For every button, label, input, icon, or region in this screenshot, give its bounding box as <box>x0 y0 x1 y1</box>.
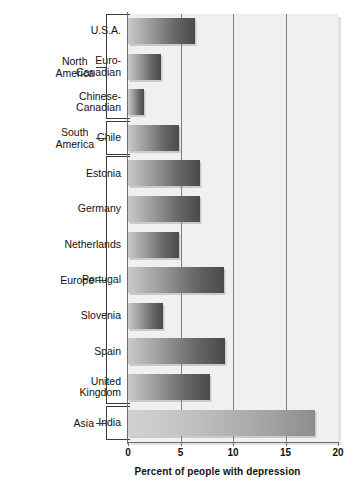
bar-estonia <box>128 160 200 186</box>
bar-germany <box>128 196 200 222</box>
group-label-north: NorthAmerica <box>55 55 94 79</box>
group-label-line: North <box>55 55 94 67</box>
bracket-spine <box>106 14 107 119</box>
group-label-europe: Europe <box>60 274 94 286</box>
bracket-spine <box>106 121 107 155</box>
bar-chile <box>128 125 179 151</box>
bracket-stem <box>96 67 106 68</box>
x-axis-title-text: Percent of people with depression <box>58 466 300 477</box>
bar-slovenia <box>128 303 163 329</box>
group-label-south: SouthAmerica <box>55 126 94 150</box>
group-label-line: South <box>55 126 94 138</box>
gridline-10 <box>233 14 234 442</box>
bracket-spine <box>106 156 107 404</box>
group-label-line: America <box>55 138 94 150</box>
x-tick-label-20: 20 <box>332 447 343 458</box>
group-label-asia: Asia <box>74 417 94 429</box>
gridline-15 <box>286 14 287 442</box>
bar-netherlands <box>128 232 179 258</box>
x-tick-label-0: 0 <box>125 447 131 458</box>
bar-india <box>128 410 315 436</box>
x-tick-label-15: 15 <box>280 447 291 458</box>
y-axis-line <box>127 12 128 444</box>
bar-portugal <box>128 267 224 293</box>
group-label-line: Asia <box>74 417 94 429</box>
depression-bar-chart: 05101520 U.S.A.Euro-CanadianChinese-Cana… <box>0 0 359 492</box>
bracket-stem <box>96 138 106 139</box>
bracket-spine <box>106 406 107 440</box>
bracket-stem <box>96 423 106 424</box>
bracket-stem <box>96 280 106 281</box>
bar-u-s-a <box>128 18 195 44</box>
x-tick-label-5: 5 <box>178 447 184 458</box>
bar-unitedkingdom <box>128 374 210 400</box>
group-label-line: America <box>55 67 94 79</box>
bar-euro-canadian <box>128 54 161 80</box>
group-label-line: Europe <box>60 274 94 286</box>
x-axis-line <box>127 442 339 443</box>
x-tick-label-10: 10 <box>227 447 238 458</box>
bar-spain <box>128 338 225 364</box>
bar-chinese-canadian <box>128 89 144 115</box>
x-axis-title: Percent of people with depression <box>0 466 359 477</box>
